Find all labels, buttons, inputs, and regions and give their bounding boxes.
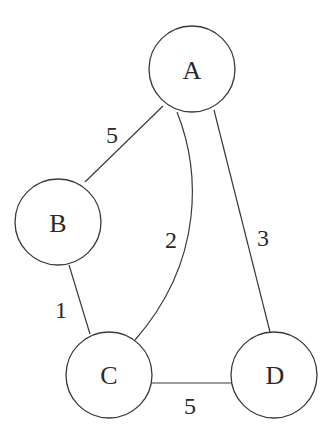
node-d: D <box>231 332 317 418</box>
edge-weight-c-d: 5 <box>184 393 196 419</box>
edge-a-d <box>214 110 270 332</box>
edge-a-c <box>135 112 192 340</box>
edge-a-b <box>85 106 163 182</box>
edge-b-c <box>69 265 90 334</box>
node-b: B <box>15 179 101 265</box>
node-b-label: B <box>49 209 66 238</box>
node-c: C <box>66 332 152 418</box>
edge-weight-b-c: 1 <box>55 297 67 323</box>
edge-weight-a-c: 2 <box>165 227 177 253</box>
node-a-label: A <box>183 56 202 85</box>
node-c-label: C <box>100 361 117 390</box>
node-a: A <box>149 26 235 112</box>
graph-diagram: 5 2 3 1 5 A B C D <box>0 0 334 434</box>
node-d-label: D <box>266 361 285 390</box>
edge-weight-a-d: 3 <box>257 225 269 251</box>
edge-weight-a-b: 5 <box>106 122 118 148</box>
